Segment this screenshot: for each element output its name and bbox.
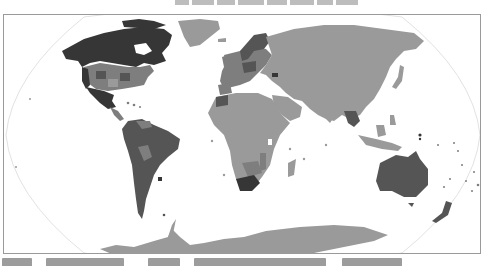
figure-caption-cropped (2, 258, 487, 266)
region-south-america (122, 119, 180, 219)
region-usa (84, 63, 154, 91)
region-madagascar (288, 159, 296, 177)
region-arctic-islands (122, 19, 166, 29)
usa-state-dark-b (120, 73, 130, 81)
region-canada-alaska (62, 27, 172, 67)
world-map-frame (3, 14, 481, 254)
region-japan (392, 65, 404, 89)
region-central-america (110, 107, 124, 121)
region-tasmania (408, 203, 414, 207)
region-iberia (218, 83, 232, 95)
region-antarctica (100, 225, 388, 254)
region-central-europe-dark (242, 61, 256, 73)
region-georgia (272, 73, 278, 77)
region-philippines (390, 115, 396, 125)
lake-victoria (268, 139, 272, 145)
usa-state-light-a (108, 79, 118, 87)
region-australia (376, 151, 428, 197)
region-greenland (178, 19, 220, 47)
region-new-zealand (432, 201, 452, 223)
usa-state-dark-a (96, 71, 106, 79)
region-morocco (216, 95, 228, 107)
region-mozambique (260, 153, 266, 171)
iceland (218, 38, 226, 42)
world-map (4, 15, 481, 254)
region-uruguay (158, 177, 162, 181)
map-title-cropped (175, 0, 375, 5)
region-indonesia (358, 135, 402, 151)
region-borneo (376, 125, 386, 137)
